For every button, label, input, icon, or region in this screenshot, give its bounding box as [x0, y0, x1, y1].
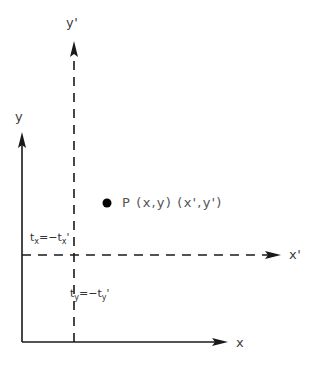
x-prime-axis-label: x': [289, 248, 301, 261]
coordinate-frame-diagram: y' x' y x P (x,y) (x',y') tx=−tx' ty=−ty…: [0, 0, 314, 367]
y-axis-label: y: [15, 110, 23, 123]
x-offset-subscript: x: [34, 237, 39, 246]
diagram-canvas: [0, 0, 314, 367]
x-offset-subscript-2: x: [62, 237, 67, 246]
y-offset-subscript: y: [74, 293, 79, 302]
y-prime-axis-label: y': [66, 16, 78, 29]
y-offset-subscript-2: y: [102, 293, 107, 302]
point-p-marker: [103, 199, 112, 208]
point-p-label: P (x,y) (x',y'): [122, 196, 223, 209]
x-axis-label: x: [236, 336, 244, 349]
y-prime-axis-arrowhead-icon: [70, 41, 78, 57]
y-offset-relation: =−t: [79, 287, 102, 300]
x-offset-relation: =−t: [39, 231, 62, 244]
x-offset-label: tx=−tx': [30, 232, 69, 243]
y-offset-label: ty=−ty': [70, 288, 109, 299]
